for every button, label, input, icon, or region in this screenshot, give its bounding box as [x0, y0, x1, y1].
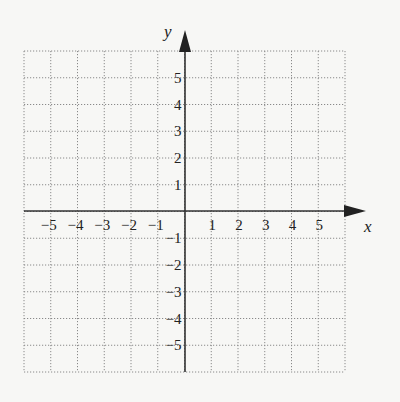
y-tick-label: 4: [174, 97, 182, 113]
x-tick-label: 3: [262, 217, 270, 233]
x-tick-label: 2: [235, 217, 243, 233]
y-axis-label: y: [162, 22, 172, 41]
y-axis-arrow-icon: [179, 30, 191, 52]
x-tick-label: 5: [316, 217, 324, 233]
x-tick-label: −4: [68, 217, 84, 233]
x-tick-labels: −5−4−3−2−112345: [41, 217, 323, 233]
y-tick-label: −1: [166, 230, 182, 246]
y-tick-label: 1: [174, 177, 182, 193]
x-tick-label: 4: [289, 217, 297, 233]
y-tick-label: −4: [166, 311, 182, 327]
y-tick-label: −3: [166, 284, 182, 300]
y-tick-label: 2: [174, 150, 182, 166]
x-tick-label: −1: [148, 217, 164, 233]
y-tick-label: −5: [166, 337, 182, 353]
x-tick-label: 1: [209, 217, 217, 233]
x-tick-label: −3: [94, 217, 110, 233]
axes: [24, 30, 366, 372]
coordinate-plane: −5−4−3−2−112345 −5−4−3−2−112345 x y: [0, 0, 400, 402]
y-tick-label: −2: [166, 257, 182, 273]
x-tick-label: −2: [121, 217, 137, 233]
y-tick-label: 5: [174, 70, 182, 86]
x-axis-label: x: [363, 217, 372, 236]
y-tick-label: 3: [174, 123, 182, 139]
x-axis-arrow-icon: [344, 205, 366, 217]
x-tick-label: −5: [41, 217, 57, 233]
